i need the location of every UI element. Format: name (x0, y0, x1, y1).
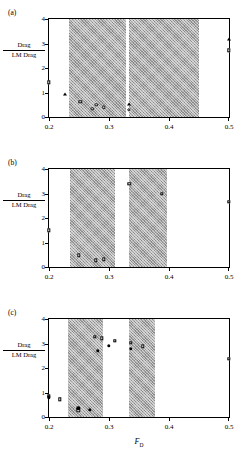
x-axis-tick-label: 0.5 (217, 123, 241, 131)
data-point-open-square (100, 336, 103, 339)
y-axis-tick-label: 3 (34, 40, 45, 48)
y-axis-tick-label: 3 (34, 340, 45, 348)
x-axis-tick (109, 267, 110, 271)
data-point-filled-triangle (63, 93, 67, 96)
data-point-open-square (141, 345, 144, 348)
x-axis-tick (169, 117, 170, 121)
y-axis-tick (45, 19, 49, 20)
data-point-open-square (94, 259, 97, 262)
y-axis-tick-label: 2 (34, 64, 45, 72)
data-point-open-square (102, 258, 105, 261)
y-axis-tick-label: 2 (34, 214, 45, 222)
panel-a-plot-area: 012340.20.30.40.5 (48, 18, 230, 118)
y-axis-tick (45, 344, 49, 345)
figure-container: (a) Drag LM Drag 012340.20.30.40.5 (b) D… (0, 0, 251, 453)
y-axis-tick-label: 4 (34, 315, 45, 323)
y-axis-tick (45, 319, 49, 320)
x-axis-tick-label: 0.4 (157, 123, 181, 131)
data-point-filled-circle (107, 344, 110, 347)
x-axis-tick-label: 0.3 (97, 273, 121, 281)
y-axis-tick (45, 194, 49, 195)
x-axis-tick-label: 0.2 (37, 123, 61, 131)
data-point-open-square (113, 339, 116, 342)
x-axis-tick (169, 417, 170, 421)
panel-b: (b) Drag LM Drag 012340.20.30.40.5 (0, 152, 251, 300)
y-axis-denominator: LM Drag (2, 51, 46, 58)
data-point-open-square (227, 200, 230, 203)
x-axis-label: FD (48, 437, 230, 448)
panel-a: (a) Drag LM Drag 012340.20.30.40.5 (0, 2, 251, 150)
panel-a-label: (a) (8, 8, 16, 17)
data-point-filled-triangle (227, 38, 231, 41)
x-axis-tick-label: 0.4 (157, 423, 181, 431)
y-axis-tick (45, 243, 49, 244)
shaded-band (70, 169, 115, 267)
x-axis-tick (49, 267, 50, 271)
x-axis-tick (228, 267, 229, 271)
y-axis-tick (45, 68, 49, 69)
y-axis-tick-label: 2 (34, 364, 45, 372)
data-point-open-square (78, 100, 81, 103)
x-axis-tick-label: 0.3 (97, 423, 121, 431)
x-axis-tick-label: 0.4 (157, 273, 181, 281)
x-axis-tick (49, 117, 50, 121)
y-axis-tick (45, 169, 49, 170)
y-axis-tick-label: 1 (34, 239, 45, 247)
data-point-open-square (128, 182, 131, 185)
y-axis-tick-label: 1 (34, 89, 45, 97)
y-axis-tick (45, 93, 49, 94)
data-point-open-square (227, 49, 230, 52)
data-point-open-square (77, 254, 80, 257)
x-axis-subscript: D (139, 442, 143, 448)
data-point-open-square (129, 341, 132, 344)
x-axis-tick (109, 117, 110, 121)
shaded-band (129, 319, 154, 417)
x-axis-tick-label: 0.5 (217, 423, 241, 431)
data-point-filled-triangle (127, 103, 131, 106)
x-axis-tick-label: 0.2 (37, 423, 61, 431)
y-axis-denominator: LM Drag (2, 351, 46, 358)
panel-c-label: (c) (8, 308, 16, 317)
x-axis-tick (109, 417, 110, 421)
data-point-open-square (47, 229, 50, 232)
x-axis-tick (49, 417, 50, 421)
x-axis-tick-label: 0.3 (97, 123, 121, 131)
panel-b-label: (b) (8, 158, 17, 167)
y-axis-tick (45, 44, 49, 45)
x-axis-tick-label: 0.2 (37, 273, 61, 281)
y-axis-denominator: LM Drag (2, 201, 46, 208)
data-point-open-square (227, 357, 230, 360)
shaded-band (129, 19, 199, 117)
data-point-open-square (58, 398, 61, 401)
y-axis-tick-label: 4 (34, 15, 45, 23)
y-axis-tick-label: 0 (34, 113, 45, 121)
y-axis-tick-label: 4 (34, 165, 45, 173)
data-point-open-square (160, 192, 163, 195)
panel-c: (c) Drag LM Drag 012340.20.30.40.5 FD (0, 302, 251, 450)
x-axis-tick-label: 0.5 (217, 273, 241, 281)
x-axis-tick (228, 417, 229, 421)
y-axis-tick-label: 0 (34, 263, 45, 271)
y-axis-tick (45, 218, 49, 219)
shaded-band (129, 169, 166, 267)
data-point-open-square (47, 81, 50, 84)
data-point-filled-circle (47, 396, 50, 399)
panel-c-plot-area: 012340.20.30.40.5 (48, 318, 230, 418)
y-axis-tick-label: 3 (34, 190, 45, 198)
panel-b-plot-area: 012340.20.30.40.5 (48, 168, 230, 268)
x-axis-tick (228, 117, 229, 121)
y-axis-tick-label: 0 (34, 413, 45, 421)
x-axis-tick (169, 267, 170, 271)
y-axis-tick (45, 368, 49, 369)
shaded-band (68, 319, 103, 417)
data-point-open-square (93, 335, 96, 338)
y-axis-tick-label: 1 (34, 389, 45, 397)
